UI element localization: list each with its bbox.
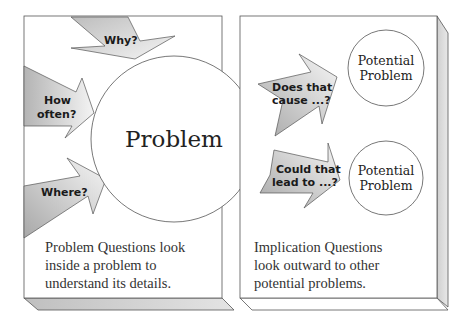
potential-problem-1-label-1: Potential: [358, 53, 414, 68]
left-panel-caption: Problem Questions look inside a problem …: [45, 238, 185, 292]
arrow-how-often-label-2: often?: [37, 108, 76, 121]
arrow-where-label: Where?: [41, 186, 88, 199]
arrow-does-that-cause-label-1: Does that: [272, 81, 332, 94]
arrow-how-often-label-1: How: [44, 94, 71, 107]
left-caption-line-1: Problem Questions look: [45, 238, 185, 256]
potential-problem-circle-1: Potential Problem: [348, 30, 424, 106]
left-panel-bottom-face: [24, 298, 234, 310]
problem-circle: Problem: [91, 56, 257, 222]
right-panel-side-face: [437, 16, 448, 307]
left-caption-line-3: understand its details.: [45, 274, 185, 292]
potential-problem-circle-2: Potential Problem: [349, 141, 423, 215]
arrow-could-that-lead-label-1: Could that: [276, 163, 341, 176]
problem-circle-label: Problem: [125, 126, 223, 152]
arrow-why-label: Why?: [104, 34, 138, 47]
potential-problem-2-label-1: Potential: [358, 163, 414, 178]
arrow-could-that-lead-label-2: lead to ...?: [272, 176, 338, 189]
potential-problem-1-label-2: Problem: [359, 68, 412, 83]
potential-problem-2-label-2: Problem: [359, 178, 412, 193]
left-caption-line-2: inside a problem to: [45, 256, 185, 274]
right-panel-caption: Implication Questions look outward to ot…: [254, 238, 382, 292]
right-panel-bottom-face: [240, 298, 448, 310]
right-caption-line-1: Implication Questions: [254, 238, 382, 256]
arrow-does-that-cause-label-2: cause ...?: [272, 94, 331, 107]
right-caption-line-2: look outward to other: [254, 256, 382, 274]
right-caption-line-3: potential problems.: [254, 274, 382, 292]
